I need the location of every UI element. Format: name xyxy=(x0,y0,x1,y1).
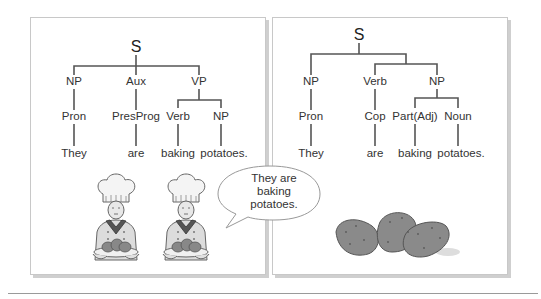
right-tree-verb: Verb xyxy=(363,76,387,88)
right-tree-noun: Noun xyxy=(444,111,472,123)
left-tree-leaf-potatoes: potatoes. xyxy=(200,148,247,160)
speech-line-1: They are xyxy=(232,172,316,185)
left-tree-np: NP xyxy=(66,76,82,88)
left-tree-pron: Pron xyxy=(62,111,86,123)
left-tree-vp: VP xyxy=(191,76,206,88)
left-tree-verb: Verb xyxy=(166,111,190,123)
right-tree-leaf-they: They xyxy=(298,148,324,160)
left-tree-leaf-are: are xyxy=(128,148,145,160)
speech-line-3: potatoes. xyxy=(232,198,316,211)
right-tree-root-s: S xyxy=(354,27,365,43)
right-tree-leaf-potatoes: potatoes. xyxy=(437,148,484,160)
left-tree-np2: NP xyxy=(213,111,229,123)
right-tree-leaf-baking: baking xyxy=(398,148,432,160)
left-tree-root-s: S xyxy=(131,39,142,55)
left-tree-leaf-baking: baking xyxy=(161,148,195,160)
right-tree-part-adj: Part(Adj) xyxy=(392,111,437,123)
three-potatoes-illustration xyxy=(328,208,468,268)
bottom-divider-rule xyxy=(8,293,538,294)
left-tree-presprog: PresProg xyxy=(112,111,160,123)
right-tree-np2: NP xyxy=(429,76,445,88)
speech-bubble-text: They are baking potatoes. xyxy=(232,172,316,211)
left-tree-aux: Aux xyxy=(126,76,146,88)
left-tree-leaf-they: They xyxy=(61,148,87,160)
right-tree-np: NP xyxy=(303,76,319,88)
two-chefs-illustration xyxy=(85,168,225,268)
right-tree-cop: Cop xyxy=(364,111,385,123)
speech-line-2: baking xyxy=(232,185,316,198)
right-tree-leaf-are: are xyxy=(367,148,384,160)
right-tree-pron: Pron xyxy=(299,111,323,123)
